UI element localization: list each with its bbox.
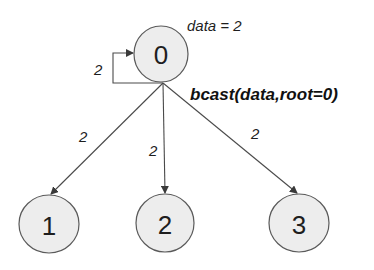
edge-label-0-3: 2 bbox=[250, 125, 260, 142]
broadcast-diagram: 0 1 2 3 2 2 2 2 data = 2 bcast(data,root… bbox=[0, 0, 374, 270]
edge-label-0-1: 2 bbox=[78, 128, 88, 145]
edge-label-0-2: 2 bbox=[148, 142, 158, 159]
edge-0-to-2 bbox=[163, 83, 165, 193]
node-3: 3 bbox=[269, 194, 329, 252]
node-0: 0 bbox=[134, 26, 188, 82]
node-2-label: 2 bbox=[158, 210, 172, 240]
node-2: 2 bbox=[136, 194, 194, 252]
edge-0-to-1 bbox=[51, 83, 163, 194]
root-data-annotation: data = 2 bbox=[187, 17, 242, 34]
edge-label-0-0: 2 bbox=[93, 61, 103, 78]
node-1: 1 bbox=[19, 195, 79, 253]
node-0-label: 0 bbox=[154, 40, 168, 70]
node-3-label: 3 bbox=[292, 210, 306, 240]
node-1-label: 1 bbox=[42, 211, 56, 241]
operation-label: bcast(data,root=0) bbox=[190, 85, 338, 104]
